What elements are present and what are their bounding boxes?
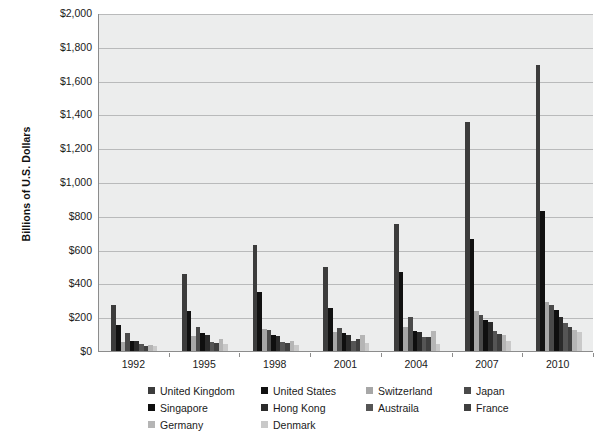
bar xyxy=(223,344,228,351)
bar-group xyxy=(170,14,241,351)
legend-swatch-icon xyxy=(366,387,373,394)
x-axis-tick-label: 2001 xyxy=(316,358,376,370)
x-axis-tick xyxy=(593,353,594,357)
y-axis-tick-label: $600 xyxy=(16,244,92,256)
x-axis-tick-label: 1995 xyxy=(174,358,234,370)
x-axis-tick-label: 1992 xyxy=(103,358,163,370)
y-axis-tick-label: $400 xyxy=(16,277,92,289)
legend-row: GermanyDenmark xyxy=(148,416,588,433)
legend-row: United KingdomUnited StatesSwitzerlandJa… xyxy=(148,382,588,399)
bar-chart: Billions of U.S. Dollars $0$200$400$600$… xyxy=(0,0,606,447)
legend-item[interactable]: Singapore xyxy=(148,402,261,414)
x-axis-tick-label: 2004 xyxy=(386,358,446,370)
legend-swatch-icon xyxy=(464,404,471,411)
legend-label: Switzerland xyxy=(378,385,432,397)
bar-group xyxy=(311,14,382,351)
legend-label: Hong Kong xyxy=(273,402,326,414)
legend-item[interactable]: United States xyxy=(261,385,366,397)
y-axis-tick-label: $1,400 xyxy=(16,108,92,120)
bar-group xyxy=(240,14,311,351)
x-axis-tick xyxy=(522,353,523,357)
legend-label: United Kingdom xyxy=(160,385,235,397)
bar-groups xyxy=(99,14,593,351)
x-axis-tick xyxy=(169,353,170,357)
legend-label: Austraila xyxy=(378,402,419,414)
x-axis-tick-label: 2007 xyxy=(457,358,517,370)
bar-group xyxy=(453,14,524,351)
y-axis-tick-label: $2,000 xyxy=(16,7,92,19)
bar xyxy=(506,341,511,351)
y-axis-tick-label: $0 xyxy=(16,345,92,357)
legend-label: United States xyxy=(273,385,336,397)
bar-group xyxy=(382,14,453,351)
y-axis-tick-label: $200 xyxy=(16,311,92,323)
x-axis-tick xyxy=(310,353,311,357)
legend-swatch-icon xyxy=(261,387,268,394)
chart-legend: United KingdomUnited StatesSwitzerlandJa… xyxy=(148,382,588,433)
legend-item[interactable]: Denmark xyxy=(261,419,366,431)
legend-label: Denmark xyxy=(273,419,316,431)
bar xyxy=(153,346,158,351)
legend-label: Japan xyxy=(476,385,505,397)
legend-item[interactable]: United Kingdom xyxy=(148,385,261,397)
x-axis-tick xyxy=(381,353,382,357)
legend-label: Singapore xyxy=(160,402,208,414)
x-axis-tick xyxy=(452,353,453,357)
x-axis-tick-label: 1998 xyxy=(245,358,305,370)
bar xyxy=(577,332,582,351)
x-axis-tick xyxy=(239,353,240,357)
plot-area xyxy=(98,14,593,352)
legend-swatch-icon xyxy=(148,421,155,428)
legend-item[interactable]: Switzerland xyxy=(366,385,464,397)
y-axis-tick-label: $1,000 xyxy=(16,176,92,188)
y-axis-tick-label: $800 xyxy=(16,210,92,222)
x-axis-tick-label: 2010 xyxy=(528,358,588,370)
legend-item[interactable]: Hong Kong xyxy=(261,402,366,414)
legend-swatch-icon xyxy=(261,421,268,428)
legend-swatch-icon xyxy=(464,387,471,394)
legend-item[interactable]: Germany xyxy=(148,419,261,431)
gridline xyxy=(99,352,593,353)
bar xyxy=(365,343,370,351)
legend-row: SingaporeHong KongAustrailaFrance xyxy=(148,399,588,416)
legend-item[interactable]: France xyxy=(464,402,554,414)
bar xyxy=(294,345,299,351)
legend-swatch-icon xyxy=(148,387,155,394)
legend-item[interactable]: Austraila xyxy=(366,402,464,414)
legend-swatch-icon xyxy=(261,404,268,411)
bar xyxy=(436,344,441,351)
legend-label: Germany xyxy=(160,419,203,431)
legend-label: France xyxy=(476,402,509,414)
bar-group xyxy=(523,14,594,351)
legend-item[interactable]: Japan xyxy=(464,385,554,397)
y-axis-tick-label: $1,600 xyxy=(16,75,92,87)
y-axis-tick-label: $1,800 xyxy=(16,41,92,53)
y-axis-tick-label: $1,200 xyxy=(16,142,92,154)
legend-swatch-icon xyxy=(148,404,155,411)
legend-swatch-icon xyxy=(366,404,373,411)
bar-group xyxy=(99,14,170,351)
